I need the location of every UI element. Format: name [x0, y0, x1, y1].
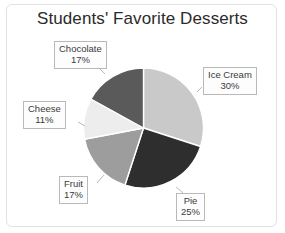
leader-line-icecream [197, 87, 202, 92]
slice-label-fruit[interactable]: Fruit 17% [59, 176, 88, 204]
slice-label-ice-cream-value: 30% [208, 81, 252, 92]
pie-slice-group [83, 68, 203, 188]
slice-label-chocolate-value: 17% [59, 55, 102, 66]
slice-label-chocolate[interactable]: Chocolate 17% [54, 41, 107, 69]
pie-chart-card: Students' Favorite Desserts Chocolate 17… [0, 0, 285, 233]
slice-label-cheese[interactable]: Cheese 11% [23, 101, 66, 129]
slice-label-ice-cream[interactable]: Ice Cream 30% [203, 67, 257, 95]
slice-label-fruit-value: 17% [64, 190, 83, 201]
slice-label-pie-value: 25% [181, 207, 200, 218]
leader-line-fruit [97, 175, 104, 183]
slice-label-cheese-value: 11% [28, 115, 61, 126]
slice-label-pie[interactable]: Pie 25% [176, 193, 205, 221]
